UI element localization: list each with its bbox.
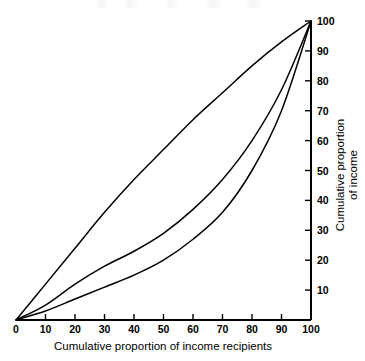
x-axis-tick-label: 50 bbox=[158, 323, 170, 335]
lorenz-curve-line-2 bbox=[16, 21, 311, 320]
lorenz-curve-line-3 bbox=[16, 21, 311, 320]
x-axis-tick-label: 80 bbox=[246, 323, 258, 335]
y-axis-tick-label: 40 bbox=[317, 194, 329, 206]
y-axis-tick-label: 70 bbox=[317, 105, 329, 117]
x-axis-tick-label: 90 bbox=[276, 323, 288, 335]
lorenz-curve-figure: 0102030405060708090100 10203040506070809… bbox=[0, 0, 365, 361]
x-axis-tick-label: 100 bbox=[302, 323, 320, 335]
y-axis-tick-label: 50 bbox=[317, 165, 329, 177]
x-axis-tick-label: 0 bbox=[13, 323, 19, 335]
x-axis-tick-label: 10 bbox=[40, 323, 52, 335]
y-axis-tick-label: 10 bbox=[317, 284, 329, 296]
x-axis-tick-label: 30 bbox=[99, 323, 111, 335]
lorenz-curves bbox=[16, 21, 311, 320]
lorenz-curve-line-1 bbox=[16, 21, 311, 320]
y-axis-tick-label: 60 bbox=[317, 135, 329, 147]
x-axis-title: Cumulative proportion of income recipien… bbox=[54, 340, 272, 352]
y-axis-tick-label: 100 bbox=[317, 15, 335, 27]
y-axis-title-line-2: of income bbox=[347, 150, 359, 200]
x-axis-tick-label: 40 bbox=[128, 323, 140, 335]
y-axis-title-line-1: Cumulative proportion bbox=[334, 119, 346, 232]
x-axis-tick-label: 60 bbox=[187, 323, 199, 335]
y-axis-tick-label: 20 bbox=[317, 254, 329, 266]
y-axis-tick-label: 30 bbox=[317, 224, 329, 236]
x-axis-tick-label: 70 bbox=[217, 323, 229, 335]
y-axis-tick-labels: 102030405060708090100 bbox=[317, 15, 335, 296]
x-axis-tick-label: 20 bbox=[69, 323, 81, 335]
x-axis-tick-labels: 0102030405060708090100 bbox=[13, 323, 320, 335]
lorenz-curve-plot: 0102030405060708090100 10203040506070809… bbox=[0, 0, 365, 361]
y-axis-tick-label: 90 bbox=[317, 45, 329, 57]
y-axis-tick-label: 80 bbox=[317, 75, 329, 87]
